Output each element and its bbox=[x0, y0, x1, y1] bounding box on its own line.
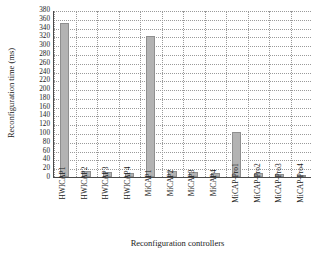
bar bbox=[146, 36, 155, 177]
x-axis-tick-label-text: MiCAP-Pro2 bbox=[253, 163, 261, 202]
bar bbox=[60, 23, 69, 177]
x-axis-tick-label: MiCAP-Pro4 bbox=[290, 179, 312, 235]
x-axis-tick-label-text: MiCAP-Pro3 bbox=[275, 163, 283, 202]
x-axis-tick-label: MiCAP3 bbox=[182, 179, 204, 235]
x-axis-tick-label: MiCAP-Pro1 bbox=[225, 179, 247, 235]
x-axis-tick-labels: HWICAP1HWICAP2HWICAP3HWICAP4MiCAP1MiCAP2… bbox=[53, 179, 311, 237]
x-axis-tick-label-text: MiCAP-Pro1 bbox=[232, 163, 240, 202]
x-axis-tick-label: HWICAP3 bbox=[96, 179, 118, 235]
x-axis-tick-label-text: MiCAP3 bbox=[189, 170, 197, 197]
y-axis-tick-label: 340 bbox=[39, 25, 50, 32]
x-axis-tick-label-text: MiCAP-Pro4 bbox=[296, 163, 304, 202]
y-axis-title: Reconfiguration time (ms) bbox=[0, 0, 22, 186]
plot-area bbox=[53, 11, 311, 178]
x-axis-tick-label: HWICAP2 bbox=[75, 179, 97, 235]
y-axis-tick-label: 280 bbox=[39, 51, 50, 58]
y-axis-tick-label: 0 bbox=[46, 174, 50, 181]
y-axis-tick-label: 260 bbox=[39, 60, 50, 67]
y-axis-tick-label: 120 bbox=[39, 122, 50, 129]
y-axis-tick-label: 200 bbox=[39, 86, 50, 93]
x-axis-tick-label-text: HWICAP2 bbox=[81, 167, 89, 200]
x-axis-tick-label-text: MiCAP2 bbox=[167, 170, 175, 197]
x-axis-tick-label-text: HWICAP1 bbox=[60, 167, 68, 200]
x-axis-tick-label: MiCAP4 bbox=[204, 179, 226, 235]
y-axis-tick-label: 320 bbox=[39, 34, 50, 41]
y-axis-tick-label: 80 bbox=[43, 139, 50, 146]
y-axis-tick-label: 60 bbox=[43, 148, 50, 155]
x-axis-tick-label: HWICAP4 bbox=[118, 179, 140, 235]
bar-chart-figure: Reconfiguration time (ms) 02040608010012… bbox=[0, 0, 322, 259]
y-axis-tick-label: 40 bbox=[43, 157, 50, 164]
y-axis-tick-label: 20 bbox=[43, 166, 50, 173]
x-axis-tick-label: MiCAP2 bbox=[161, 179, 183, 235]
y-axis-tick-label: 100 bbox=[39, 130, 50, 137]
y-axis-tick-label: 380 bbox=[39, 7, 50, 14]
y-axis-tick-label: 160 bbox=[39, 104, 50, 111]
x-axis-tick-label: HWICAP1 bbox=[53, 179, 75, 235]
bar-series bbox=[54, 11, 311, 177]
y-axis-tick-label: 140 bbox=[39, 113, 50, 120]
x-axis-tick-label-text: MiCAP1 bbox=[146, 170, 154, 197]
y-axis-title-text: Reconfiguration time (ms) bbox=[6, 48, 16, 138]
x-axis-tick-label-text: HWICAP4 bbox=[124, 167, 132, 200]
x-axis-tick-label-text: HWICAP3 bbox=[103, 167, 111, 200]
y-axis-tick-label: 240 bbox=[39, 69, 50, 76]
y-axis-tick-labels: 0204060801001201401601802002202402602803… bbox=[22, 8, 52, 180]
x-axis-tick-label: MiCAP1 bbox=[139, 179, 161, 235]
y-axis-tick-label: 220 bbox=[39, 78, 50, 85]
x-axis-tick-label: MiCAP-Pro2 bbox=[247, 179, 269, 235]
x-axis-title: Reconfiguration controllers bbox=[40, 238, 315, 248]
x-axis-tick-label: MiCAP-Pro3 bbox=[268, 179, 290, 235]
y-axis-tick-label: 300 bbox=[39, 43, 50, 50]
y-axis-tick-label: 180 bbox=[39, 95, 50, 102]
y-axis-tick-label: 360 bbox=[39, 16, 50, 23]
x-axis-tick-label-text: MiCAP4 bbox=[210, 170, 218, 197]
